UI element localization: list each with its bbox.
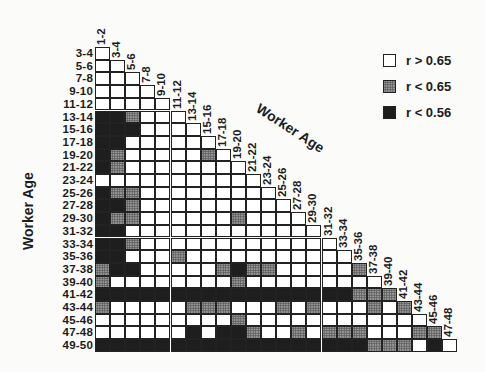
row-label: 33-34 [63,238,93,251]
column-label: 29-30 [306,193,318,222]
matrix-cell [276,288,291,301]
row-label: 31-32 [63,225,93,238]
matrix-cell [216,187,231,200]
matrix-cell [291,339,306,352]
matrix-cell [186,161,201,174]
matrix-cell [397,326,412,339]
row-label: 29-30 [63,212,93,225]
matrix-cell [155,174,170,187]
matrix-cell [201,174,216,187]
matrix-cell [306,263,321,276]
column-label: 39-40 [382,257,394,286]
legend-label: r > 0.65 [406,53,451,68]
matrix-cell [125,136,140,149]
column-label: 37-38 [367,244,379,273]
matrix-cell [382,339,397,352]
matrix-cell [201,225,216,238]
matrix-cell [186,212,201,225]
matrix-cell [231,314,246,327]
matrix-cell [291,276,306,289]
black-square-icon [383,106,396,119]
matrix-cell [110,111,125,124]
matrix-cell [246,263,261,276]
matrix-cell [291,212,306,225]
matrix-cell [216,314,231,327]
matrix-cell [201,288,216,301]
matrix-cell [140,339,155,352]
matrix-cell [216,161,231,174]
matrix-cell [125,301,140,314]
matrix-cell [171,149,186,162]
matrix-cell [201,326,216,339]
matrix-cell [95,326,110,339]
matrix-cell [276,238,291,251]
matrix-cell [140,301,155,314]
row-label: 47-48 [63,326,93,339]
row-label: 39-40 [63,276,93,289]
matrix-cell [246,276,261,289]
matrix-cell [231,161,246,174]
matrix-cell [337,339,352,352]
column-label: 1-2 [95,28,107,45]
row-label: 7-8 [76,72,93,85]
matrix-cell [171,123,186,136]
matrix-cell [231,263,246,276]
matrix-cell [306,326,321,339]
matrix-cell [186,250,201,263]
matrix-cell [171,339,186,352]
matrix-cell [352,339,367,352]
matrix-cell [110,136,125,149]
matrix-cell [231,212,246,225]
matrix-cell [140,111,155,124]
matrix-cell [155,314,170,327]
matrix-cell [261,212,276,225]
matrix-cell [216,301,231,314]
matrix-cell [322,301,337,314]
column-label: 27-28 [291,181,303,210]
matrix-cell [216,288,231,301]
matrix-cell [261,238,276,251]
matrix-cell [291,288,306,301]
matrix-cell [201,238,216,251]
matrix-cell [186,136,201,149]
matrix-cell [382,314,397,327]
matrix-cell [201,339,216,352]
matrix-cell [155,98,170,111]
matrix-cell [201,161,216,174]
matrix-cell [216,326,231,339]
column-label: 15-16 [201,104,213,133]
matrix-cell [95,98,110,111]
matrix-cell [171,225,186,238]
matrix-cell [95,225,110,238]
row-label: 23-24 [63,174,93,187]
row-label: 15-16 [63,123,93,136]
matrix-cell [110,238,125,251]
matrix-cell [306,288,321,301]
matrix-cell [95,314,110,327]
matrix-cell [110,98,125,111]
matrix-cell [125,161,140,174]
matrix-cell [171,212,186,225]
matrix-cell [155,199,170,212]
matrix-cell [155,111,170,124]
matrix-cell [140,225,155,238]
matrix-cell [246,339,261,352]
matrix-cell [95,288,110,301]
column-label: 47-48 [442,308,454,337]
matrix-cell [231,187,246,200]
matrix-cell [95,276,110,289]
matrix-cell [125,174,140,187]
matrix-cell [95,136,110,149]
matrix-cell [140,288,155,301]
matrix-cell [140,263,155,276]
matrix-cell [186,339,201,352]
matrix-cell [95,60,110,73]
matrix-cell [155,212,170,225]
matrix-cell [231,301,246,314]
matrix-cell [140,250,155,263]
matrix-cell [216,174,231,187]
column-label: 13-14 [186,92,198,121]
matrix-cell [95,174,110,187]
legend: r > 0.65 r < 0.65 r < 0.56 [383,47,451,125]
matrix-cell [291,263,306,276]
